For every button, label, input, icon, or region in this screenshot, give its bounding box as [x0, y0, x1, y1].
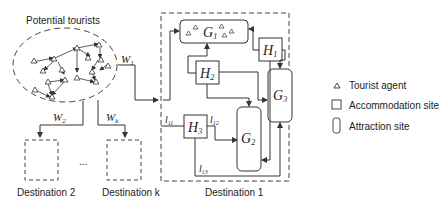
destination-k-box: [107, 140, 141, 180]
edge-l12-label: l12: [210, 114, 219, 126]
edge-l13-label: l13: [199, 163, 208, 175]
edge-l11-label: l11: [165, 114, 173, 126]
destination-2-label: Destination 2: [17, 187, 76, 198]
triangle-icon: [334, 83, 340, 88]
legend-accommodation-site: Accommodation site: [349, 100, 439, 111]
rounded-rect-icon: [333, 118, 340, 133]
flow-w1-label: W1: [121, 53, 134, 67]
legend-attraction-site: Attraction site: [349, 121, 410, 132]
destination-2-box: [25, 140, 58, 180]
destination-k-label: Destination k: [102, 187, 161, 198]
tourism-network-diagram: Potential tourists: [0, 0, 448, 205]
legend: Tourist agent Accommodation site Attract…: [332, 80, 439, 133]
flow-w2-label: W2: [53, 111, 66, 125]
flow-wk-label: Wk: [106, 111, 119, 125]
legend-tourist-agent: Tourist agent: [349, 80, 406, 91]
square-icon: [332, 100, 341, 109]
flow-w1-arrow: [118, 65, 158, 100]
potential-tourists-ellipse: [13, 28, 117, 102]
destination-1-label: Destination 1: [205, 187, 264, 198]
ellipsis: ...: [79, 156, 87, 167]
potential-tourists-label: Potential tourists: [26, 15, 100, 26]
